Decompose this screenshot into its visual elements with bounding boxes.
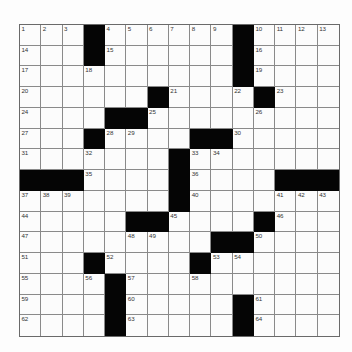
- grid-cell[interactable]: [233, 170, 254, 191]
- grid-cell[interactable]: 41: [275, 191, 296, 212]
- grid-cell[interactable]: 38: [41, 191, 62, 212]
- grid-cell[interactable]: [63, 108, 84, 129]
- grid-cell[interactable]: [211, 87, 232, 108]
- grid-cell[interactable]: [233, 108, 254, 129]
- grid-cell[interactable]: [296, 46, 317, 67]
- grid-cell[interactable]: [148, 295, 169, 316]
- grid-cell[interactable]: [318, 295, 339, 316]
- grid-cell[interactable]: 59: [20, 295, 41, 316]
- grid-cell[interactable]: [148, 170, 169, 191]
- grid-cell[interactable]: [190, 108, 211, 129]
- grid-cell[interactable]: [41, 253, 62, 274]
- grid-cell[interactable]: [318, 315, 339, 336]
- grid-cell[interactable]: [41, 129, 62, 150]
- grid-cell[interactable]: 17: [20, 66, 41, 87]
- grid-cell[interactable]: 21: [169, 87, 190, 108]
- grid-cell[interactable]: 5: [126, 25, 147, 46]
- grid-cell[interactable]: 54: [233, 253, 254, 274]
- grid-cell[interactable]: [296, 295, 317, 316]
- grid-cell[interactable]: [63, 295, 84, 316]
- grid-cell[interactable]: [41, 108, 62, 129]
- grid-cell[interactable]: 42: [296, 191, 317, 212]
- grid-cell[interactable]: [318, 108, 339, 129]
- grid-cell[interactable]: [84, 108, 105, 129]
- grid-cell[interactable]: 33: [190, 149, 211, 170]
- grid-cell[interactable]: [190, 87, 211, 108]
- grid-cell[interactable]: [126, 149, 147, 170]
- grid-cell[interactable]: 1: [20, 25, 41, 46]
- grid-cell[interactable]: [84, 295, 105, 316]
- grid-cell[interactable]: 50: [254, 232, 275, 253]
- grid-cell[interactable]: 4: [105, 25, 126, 46]
- grid-cell[interactable]: [296, 149, 317, 170]
- grid-cell[interactable]: 32: [84, 149, 105, 170]
- grid-cell[interactable]: [126, 170, 147, 191]
- grid-cell[interactable]: 3: [63, 25, 84, 46]
- grid-cell[interactable]: [169, 253, 190, 274]
- grid-cell[interactable]: 11: [275, 25, 296, 46]
- grid-cell[interactable]: [318, 66, 339, 87]
- grid-cell[interactable]: 29: [126, 129, 147, 150]
- grid-cell[interactable]: 34: [211, 149, 232, 170]
- grid-cell[interactable]: [190, 66, 211, 87]
- grid-cell[interactable]: [148, 253, 169, 274]
- grid-cell[interactable]: [41, 232, 62, 253]
- grid-cell[interactable]: 64: [254, 315, 275, 336]
- grid-cell[interactable]: 36: [190, 170, 211, 191]
- grid-cell[interactable]: [63, 46, 84, 67]
- grid-cell[interactable]: 7: [169, 25, 190, 46]
- grid-cell[interactable]: [63, 232, 84, 253]
- grid-cell[interactable]: [169, 108, 190, 129]
- grid-cell[interactable]: 37: [20, 191, 41, 212]
- grid-cell[interactable]: [190, 315, 211, 336]
- grid-cell[interactable]: 24: [20, 108, 41, 129]
- grid-cell[interactable]: [105, 191, 126, 212]
- grid-cell[interactable]: [275, 315, 296, 336]
- grid-cell[interactable]: [296, 108, 317, 129]
- grid-cell[interactable]: [211, 274, 232, 295]
- grid-cell[interactable]: [211, 315, 232, 336]
- grid-cell[interactable]: [275, 108, 296, 129]
- grid-cell[interactable]: 19: [254, 66, 275, 87]
- grid-cell[interactable]: [254, 274, 275, 295]
- grid-cell[interactable]: [63, 149, 84, 170]
- grid-cell[interactable]: [190, 212, 211, 233]
- grid-cell[interactable]: 52: [105, 253, 126, 274]
- grid-cell[interactable]: [169, 46, 190, 67]
- grid-cell[interactable]: [41, 315, 62, 336]
- grid-cell[interactable]: [126, 191, 147, 212]
- grid-cell[interactable]: [275, 253, 296, 274]
- grid-cell[interactable]: [84, 315, 105, 336]
- grid-cell[interactable]: [318, 149, 339, 170]
- grid-cell[interactable]: [254, 253, 275, 274]
- grid-cell[interactable]: [148, 315, 169, 336]
- grid-cell[interactable]: [41, 66, 62, 87]
- grid-cell[interactable]: 12: [296, 25, 317, 46]
- grid-cell[interactable]: [211, 108, 232, 129]
- grid-cell[interactable]: [105, 212, 126, 233]
- grid-cell[interactable]: [105, 87, 126, 108]
- grid-cell[interactable]: [126, 66, 147, 87]
- grid-cell[interactable]: 9: [211, 25, 232, 46]
- grid-cell[interactable]: [169, 274, 190, 295]
- grid-cell[interactable]: 53: [211, 253, 232, 274]
- grid-cell[interactable]: 48: [126, 232, 147, 253]
- grid-cell[interactable]: [126, 253, 147, 274]
- grid-cell[interactable]: [211, 170, 232, 191]
- grid-cell[interactable]: 25: [148, 108, 169, 129]
- grid-cell[interactable]: [233, 212, 254, 233]
- grid-cell[interactable]: [84, 212, 105, 233]
- grid-cell[interactable]: [318, 212, 339, 233]
- grid-cell[interactable]: [84, 232, 105, 253]
- grid-cell[interactable]: 60: [126, 295, 147, 316]
- grid-cell[interactable]: [148, 46, 169, 67]
- grid-cell[interactable]: [63, 274, 84, 295]
- grid-cell[interactable]: [190, 46, 211, 67]
- grid-cell[interactable]: 43: [318, 191, 339, 212]
- grid-cell[interactable]: 55: [20, 274, 41, 295]
- grid-cell[interactable]: 20: [20, 87, 41, 108]
- grid-cell[interactable]: [169, 66, 190, 87]
- grid-cell[interactable]: [148, 149, 169, 170]
- grid-cell[interactable]: [84, 87, 105, 108]
- grid-cell[interactable]: 49: [148, 232, 169, 253]
